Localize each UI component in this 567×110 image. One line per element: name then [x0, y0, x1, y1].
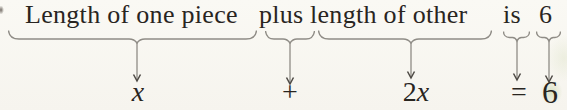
annotated-equation-figure: Length of one piece plus length of other… — [0, 0, 567, 110]
phrase-is: is — [503, 0, 521, 30]
underbrace — [9, 31, 257, 44]
math-term-x: x — [132, 74, 144, 110]
underbrace — [504, 32, 530, 42]
underbrace — [266, 31, 315, 43]
math-term-2x: 2x — [403, 74, 429, 110]
underbrace — [537, 32, 561, 42]
math-plus-sign: + — [282, 74, 298, 110]
phrase-plus: plus — [259, 0, 304, 30]
math-equals-sign: = — [511, 74, 527, 110]
phrase-length-of-other: length of other — [310, 0, 468, 30]
underbrace — [319, 31, 492, 44]
phrase-six: 6 — [539, 0, 552, 30]
phrase-length-of-one-piece: Length of one piece — [25, 0, 238, 30]
math-result-6: 6 — [542, 74, 558, 110]
